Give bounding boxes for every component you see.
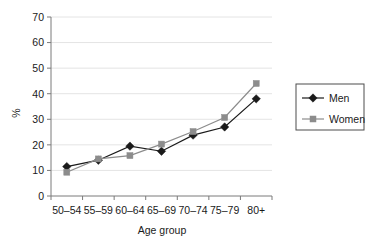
data-point-marker xyxy=(310,116,316,122)
line-chart: 010203040506070 50–5455–5960–6465–6970–7… xyxy=(0,0,370,244)
y-axis-tick-label: 30 xyxy=(32,113,44,125)
y-axis-tick-label: 20 xyxy=(32,139,44,151)
data-point-marker xyxy=(222,114,228,120)
y-axis-tick-label: 60 xyxy=(32,36,44,48)
x-axis-tick-label: 70–74 xyxy=(178,204,207,216)
legend-item-label: Women xyxy=(329,113,365,125)
legend-item-label: Men xyxy=(329,92,350,104)
x-axis-tick-label: 55–59 xyxy=(84,204,113,216)
chart-container: 010203040506070 50–5455–5960–6465–6970–7… xyxy=(0,0,370,244)
x-axis-tick-label: 50–54 xyxy=(52,204,81,216)
legend: MenWomen xyxy=(296,84,365,130)
y-axis-tick-label: 0 xyxy=(38,190,44,202)
x-axis-title: Age group xyxy=(138,224,187,236)
data-point-marker xyxy=(190,129,196,135)
y-axis-title: % xyxy=(10,108,22,117)
x-axis-tick-label: 75–79 xyxy=(210,204,239,216)
data-point-marker xyxy=(64,169,70,175)
x-axis-tick-label: 80+ xyxy=(247,204,265,216)
x-axis-tick-labels: 50–5455–5960–6465–6970–7475–7980+ xyxy=(52,204,265,216)
data-point-marker xyxy=(127,153,133,159)
x-axis-tick-label: 65–69 xyxy=(147,204,176,216)
y-axis-tick-label: 10 xyxy=(32,164,44,176)
y-axis-tick-label: 40 xyxy=(32,88,44,100)
data-point-marker xyxy=(253,80,259,86)
y-axis-tick-label: 50 xyxy=(32,62,44,74)
x-axis-tick-label: 60–64 xyxy=(115,204,144,216)
data-point-marker xyxy=(95,156,101,162)
y-axis-tick-label: 70 xyxy=(32,11,44,23)
data-point-marker xyxy=(159,141,165,147)
